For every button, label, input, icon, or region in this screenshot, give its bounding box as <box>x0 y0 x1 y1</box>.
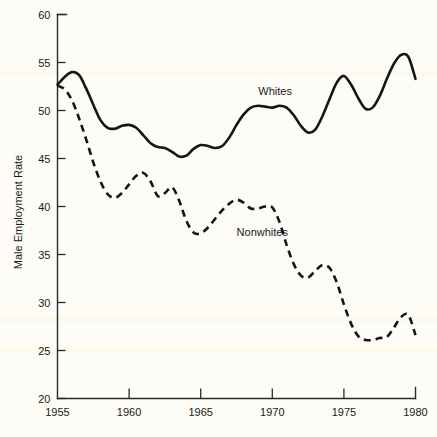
x-tick-label: 1980 <box>403 406 427 418</box>
x-tick-label: 1975 <box>332 406 356 418</box>
y-tick-label: 25 <box>38 345 50 357</box>
y-tick-label: 50 <box>38 105 50 117</box>
series-label-whites: Whites <box>258 85 292 97</box>
series-label-nonwhites: Nonwhites <box>237 226 289 238</box>
y-tick-label: 35 <box>38 249 50 261</box>
x-tick-label: 1960 <box>117 406 141 418</box>
x-tick-label: 1965 <box>188 406 212 418</box>
x-tick-label: 1955 <box>45 406 69 418</box>
y-tick-label: 30 <box>38 297 50 309</box>
male-employment-rate-chart: 202530354045505560 195519601965197019751… <box>0 0 437 437</box>
y-tick-label: 40 <box>38 201 50 213</box>
y-tick-label: 60 <box>38 9 50 21</box>
chart-background <box>0 0 437 437</box>
y-tick-label: 55 <box>38 57 50 69</box>
paper-band-middle <box>0 317 437 322</box>
y-tick-label: 20 <box>38 393 50 405</box>
y-tick-label: 45 <box>38 153 50 165</box>
chart-page: 202530354045505560 195519601965197019751… <box>0 0 437 437</box>
paper-band-lower <box>0 347 437 353</box>
x-tick-label: 1970 <box>260 406 284 418</box>
y-axis-title: Male Employment Rate <box>12 155 24 269</box>
